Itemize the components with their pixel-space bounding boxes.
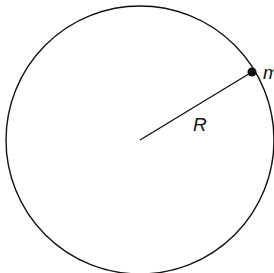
radius-label: R xyxy=(193,114,207,135)
mass-label: m xyxy=(263,62,274,83)
circle-diagram: R m xyxy=(0,0,274,273)
mass-point xyxy=(248,68,257,77)
